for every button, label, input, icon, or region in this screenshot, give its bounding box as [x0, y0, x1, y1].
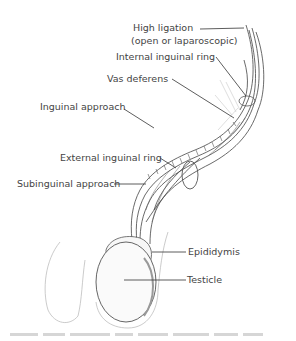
label-inguinal-approach: Inguinal approach	[40, 101, 125, 112]
label-external-inguinal-ring: External inguinal ring	[60, 152, 162, 163]
label-vas-deferens: Vas deferens	[107, 73, 168, 84]
label-high-ligation-sub: (open or laparoscopic)	[131, 35, 238, 46]
ligation-ticks	[148, 122, 236, 179]
cropped-caption-fragment	[10, 333, 290, 339]
label-subinguinal-approach: Subinguinal approach	[17, 178, 120, 189]
label-testicle: Testicle	[187, 274, 222, 285]
label-internal-inguinal-ring: Internal inguinal ring	[116, 51, 215, 62]
label-high-ligation: High ligation	[133, 22, 193, 33]
label-epididymis: Epididymis	[188, 246, 240, 257]
